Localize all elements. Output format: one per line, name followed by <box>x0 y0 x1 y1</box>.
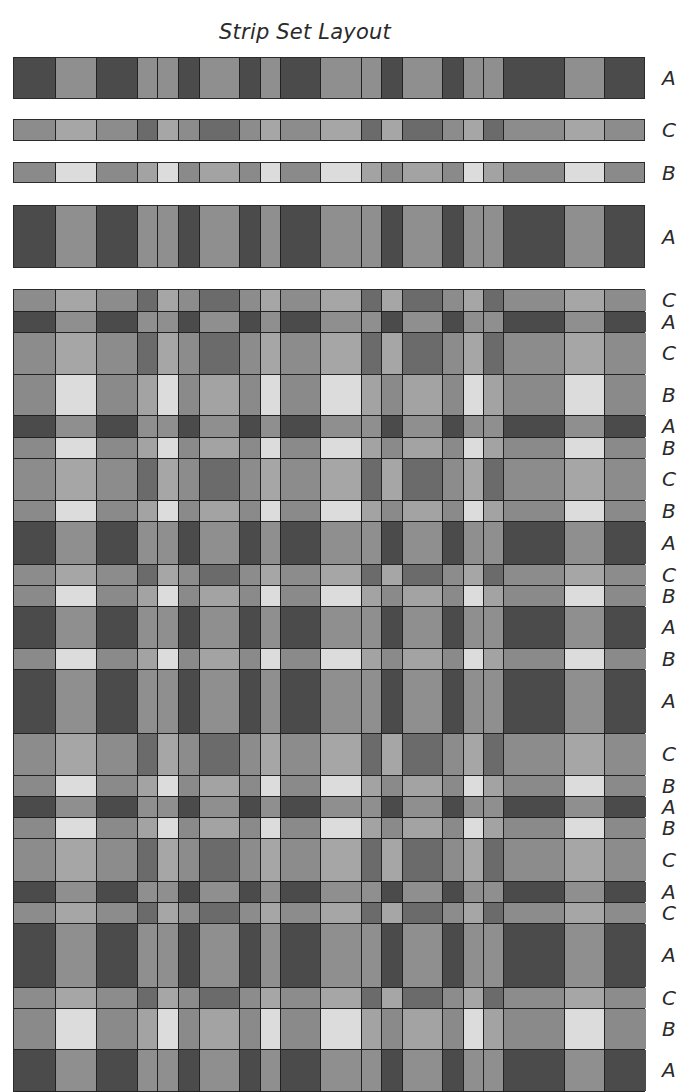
strip-cell <box>240 818 261 838</box>
strip-cell <box>382 1009 403 1049</box>
strip-cell <box>362 522 382 564</box>
strip-cell <box>281 649 321 669</box>
strip-cell <box>403 522 443 564</box>
strip-cell <box>261 586 281 606</box>
strip-cell <box>484 416 504 437</box>
strip-cell <box>464 818 484 838</box>
strip-cell <box>484 290 504 311</box>
strip-cell <box>281 882 321 902</box>
strip-cell <box>565 988 605 1008</box>
strip-cell <box>14 312 56 332</box>
strip-cell <box>321 924 362 987</box>
strip-cell <box>382 607 403 648</box>
strip-cell <box>200 375 240 415</box>
strip-cell <box>56 882 97 902</box>
strip-cell <box>464 1050 484 1091</box>
strip-cell <box>281 607 321 648</box>
strip-cell <box>484 882 504 902</box>
strip-cell <box>200 903 240 923</box>
strip-cell <box>97 58 138 98</box>
strip-cell <box>56 903 97 923</box>
strip-cell <box>504 903 565 923</box>
strip-cell <box>484 565 504 585</box>
strip-cell <box>362 670 382 733</box>
strip-cell <box>321 290 362 311</box>
strip-cell <box>240 375 261 415</box>
strip-cell <box>240 734 261 775</box>
strip-cell <box>321 438 362 458</box>
strip-cell <box>321 312 362 332</box>
strip-cell <box>14 797 56 817</box>
strip-cell <box>403 670 443 733</box>
strip-cell <box>97 1050 138 1091</box>
woven-row-a <box>14 670 644 734</box>
strip-cell <box>281 312 321 332</box>
strip-cell <box>443 818 464 838</box>
strip-cell <box>403 163 443 182</box>
strip-cell <box>240 586 261 606</box>
strip-cell <box>179 312 200 332</box>
strip-cell <box>179 734 200 775</box>
woven-row-b <box>14 586 644 607</box>
strip-cell <box>158 607 179 648</box>
strip-cell <box>484 501 504 521</box>
strip-cell <box>240 333 261 374</box>
strip-cell <box>565 1009 605 1049</box>
strip-cell <box>97 1009 138 1049</box>
strip-cell <box>138 903 158 923</box>
strip-a <box>13 205 645 268</box>
strip-cell <box>484 586 504 606</box>
strip-cell <box>321 163 362 182</box>
strip-cell <box>138 565 158 585</box>
strip-cell <box>56 58 97 98</box>
strip-cell <box>97 924 138 987</box>
strip-cell <box>281 163 321 182</box>
strip-cell <box>565 670 605 733</box>
strip-cell <box>179 290 200 311</box>
strip-cell <box>56 670 97 733</box>
woven-row-a <box>14 882 644 903</box>
strip-cell <box>504 333 565 374</box>
strip-cell <box>200 163 240 182</box>
strip-cell <box>138 333 158 374</box>
strip-cell <box>158 565 179 585</box>
strip-label: B <box>662 438 676 458</box>
strip-cell <box>179 120 200 140</box>
strip-cell <box>97 120 138 140</box>
strip-cell <box>443 206 464 267</box>
strip-cell <box>443 903 464 923</box>
strip-cell <box>565 1050 605 1091</box>
strip-cell <box>403 312 443 332</box>
strip-cell <box>200 58 240 98</box>
strip-cell <box>464 903 484 923</box>
strip-cell <box>281 1050 321 1091</box>
strip-cell <box>158 988 179 1008</box>
strip-cell <box>605 333 646 374</box>
strip-cell <box>158 416 179 437</box>
strip-cell <box>321 416 362 437</box>
strip-cell <box>138 649 158 669</box>
strip-cell <box>504 312 565 332</box>
strip-cell <box>158 839 179 881</box>
strip-cell <box>179 416 200 437</box>
strip-cell <box>484 375 504 415</box>
strip-cell <box>261 649 281 669</box>
strip-cell <box>138 839 158 881</box>
strip-cell <box>14 839 56 881</box>
strip-cell <box>179 839 200 881</box>
strip-cell <box>281 1009 321 1049</box>
strip-cell <box>179 776 200 796</box>
strip-cell <box>605 1050 646 1091</box>
strip-cell <box>261 522 281 564</box>
strip-cell <box>261 924 281 987</box>
strip-cell <box>464 163 484 182</box>
strip-cell <box>403 1009 443 1049</box>
strip-cell <box>443 1009 464 1049</box>
woven-row-c <box>14 290 644 312</box>
strip-cell <box>443 438 464 458</box>
strip-cell <box>362 375 382 415</box>
strip-cell <box>484 58 504 98</box>
strip-cell <box>565 903 605 923</box>
woven-row-b <box>14 776 644 797</box>
strip-cell <box>382 120 403 140</box>
